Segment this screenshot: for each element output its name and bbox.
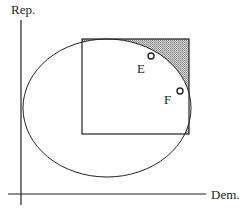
shaded-region bbox=[23, 39, 191, 177]
point-e-label: E bbox=[137, 62, 145, 75]
ellipse-frontier bbox=[23, 39, 191, 177]
y-axis-label: Rep. bbox=[11, 3, 35, 16]
x-axis-label: Dem. bbox=[211, 188, 240, 201]
point-f-marker bbox=[177, 88, 183, 94]
point-f-label: F bbox=[164, 93, 171, 106]
point-e-marker bbox=[148, 53, 154, 59]
diagram-canvas bbox=[0, 0, 245, 214]
